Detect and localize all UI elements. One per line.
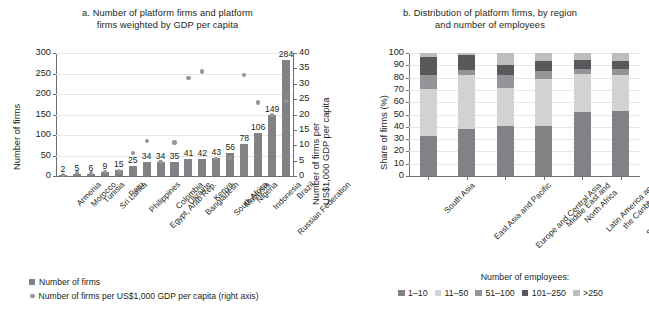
panel-b-legend-title: Number of employees: xyxy=(455,272,595,282)
panel-b-stack-segment xyxy=(497,53,514,65)
panel-b-gridline xyxy=(409,78,640,79)
panel-b-y-tickmark xyxy=(406,78,409,79)
panel-b-stack-segment xyxy=(535,71,552,79)
panel-a-y-left-tick-label: 300 xyxy=(22,48,51,57)
panel-a-gridline xyxy=(56,53,293,54)
panel-b-x-tickmark xyxy=(621,177,622,180)
panel-b-gridline xyxy=(409,90,640,91)
panel-a-legend-bars: Number of firms xyxy=(29,277,100,287)
panel-b-legend-label-2: 11–50 xyxy=(445,288,469,298)
panel-b-x-tickmark xyxy=(582,177,583,180)
panel-a-bar xyxy=(170,162,178,176)
panel-b-legend-label-4: 101–250 xyxy=(532,288,566,298)
panel-b-y-tick-label: 10 xyxy=(381,159,404,168)
panel-a-y-left-tickmark xyxy=(53,176,56,177)
panel-b-y-tick-label: 20 xyxy=(381,146,404,155)
panel-a-legend-dots: Number of firms per US$1,000 GDP per cap… xyxy=(29,291,259,301)
panel-a-y-right-tick-label: 30 xyxy=(299,79,319,88)
panel-b-stack-segment xyxy=(420,53,437,57)
panel-a-dot-marker xyxy=(117,169,121,173)
panel-b-legend-swatch-2 xyxy=(435,290,442,297)
panel-b-stack-segment xyxy=(497,65,514,74)
panel-a-y-right-axis-title-line2: US$1,000 GDP per capita xyxy=(321,45,331,205)
panel-b-y-tick-label: 50 xyxy=(381,110,404,119)
panel-a-dot-marker xyxy=(158,160,162,164)
panel-a-y-right-tickmark xyxy=(294,84,297,85)
panel-a-y-left-tickmark xyxy=(53,135,56,136)
panel-b-x-tickmark xyxy=(467,177,468,180)
panel-a-y-left-tickmark xyxy=(53,115,56,116)
panel-b-legend-label-5: >250 xyxy=(583,288,603,298)
panel-b-gridline xyxy=(409,102,640,103)
panel-b-y-tick-label: 30 xyxy=(381,134,404,143)
panel-b-stack-segment xyxy=(420,75,437,89)
panel-a-dot-marker xyxy=(103,170,107,174)
panel-b-stack-segment xyxy=(458,55,475,69)
panel-a-category-label: Philippines xyxy=(147,180,181,214)
panel-b-y-tick-label: 70 xyxy=(381,85,404,94)
panel-b-y-tickmark xyxy=(406,102,409,103)
panel-b-gridline xyxy=(409,139,640,140)
panel-b-stack-segment xyxy=(497,75,514,89)
panel-a-y-left-tickmark xyxy=(53,74,56,75)
panel-b-y-tick-label: 80 xyxy=(381,73,404,82)
panel-a-y-left-tick-label: 250 xyxy=(22,69,51,78)
panel-b-stack-segment xyxy=(458,70,475,76)
panel-b-stack-segment xyxy=(497,88,514,126)
panel-a-bar-value-label: 284 xyxy=(269,49,303,59)
panel-a-dot-marker xyxy=(145,139,149,143)
panel-b-stack-segment xyxy=(420,136,437,176)
panel-a-dot-marker xyxy=(172,140,176,144)
panel-b-y-tickmark xyxy=(406,90,409,91)
legend-label-number-of-firms: Number of firms xyxy=(39,277,100,287)
panel-a-y-right-tick-label: 35 xyxy=(299,63,319,72)
panel-a-y-right-tickmark xyxy=(294,68,297,69)
panel-b-stack-segment xyxy=(612,69,629,75)
panel-b-legend-item-5: >250 xyxy=(573,288,603,298)
panel-b-legend-item-3: 51–100 xyxy=(475,288,514,298)
panel-a-y-left-tick-label: 50 xyxy=(22,151,51,160)
panel-b-legend-swatch-4 xyxy=(522,290,529,297)
panel-a-y-right-tick-label: 5 xyxy=(299,156,319,165)
panel-b-stack-segment xyxy=(574,69,591,74)
panel-b-y-tickmark xyxy=(406,115,409,116)
panel-a-bar xyxy=(212,158,220,176)
panel-a-gridline xyxy=(56,115,293,116)
panel-a-y-right-tick-label: 15 xyxy=(299,125,319,134)
panel-a-y-left-tickmark xyxy=(53,156,56,157)
panel-b-stack-segment xyxy=(535,79,552,126)
legend-label-firms-per-gdp: Number of firms per US$1,000 GDP per cap… xyxy=(39,291,259,301)
panel-b-y-tick-label: 90 xyxy=(381,60,404,69)
panel-b-legend-item-2: 11–50 xyxy=(435,288,469,298)
panel-b-x-tickmark xyxy=(544,177,545,180)
panel-b-y-tickmark xyxy=(406,164,409,165)
panel-b-y-tick-label: 60 xyxy=(381,97,404,106)
panel-b-stack-segment xyxy=(574,112,591,176)
panel-b-legend-swatch-5 xyxy=(573,290,580,297)
panel-b-y-tickmark xyxy=(406,65,409,66)
panel-a-bar xyxy=(282,60,290,176)
panel-a-bar xyxy=(157,162,165,176)
panel-a-y-right-tick-label: 20 xyxy=(299,110,319,119)
panel-b-y-tickmark xyxy=(406,176,409,177)
panel-b-y-tick-label: 100 xyxy=(381,48,404,57)
legend-swatch-firms-per-gdp xyxy=(30,294,35,299)
panel-a-y-left-axis-title: Number of firms xyxy=(12,104,22,170)
panel-b-legend-item-4: 101–250 xyxy=(522,288,566,298)
panel-b-stack-segment xyxy=(420,57,437,75)
panel-b-y-tickmark xyxy=(406,139,409,140)
panel-a-y-left-tick-label: 150 xyxy=(22,110,51,119)
panel-b-legend-swatch-3 xyxy=(475,290,482,297)
panel-b-stack-segment xyxy=(420,89,437,136)
panel-b-legend-label-1: 1–10 xyxy=(408,288,428,298)
panel-b-stack-segment xyxy=(458,75,475,129)
panel-a-y-right-tick-label: 25 xyxy=(299,94,319,103)
panel-a-dot-marker xyxy=(89,171,93,175)
panel-b-stack-segment xyxy=(574,53,591,60)
panel-b-y-tickmark xyxy=(406,53,409,54)
panel-a-y-right-tick-label: 10 xyxy=(299,140,319,149)
panel-b-x-tickmark xyxy=(505,177,506,180)
panel-a-bar xyxy=(254,133,262,176)
panel-a-y-left-tick-label: 200 xyxy=(22,89,51,98)
panel-b-stack-segment xyxy=(535,126,552,176)
